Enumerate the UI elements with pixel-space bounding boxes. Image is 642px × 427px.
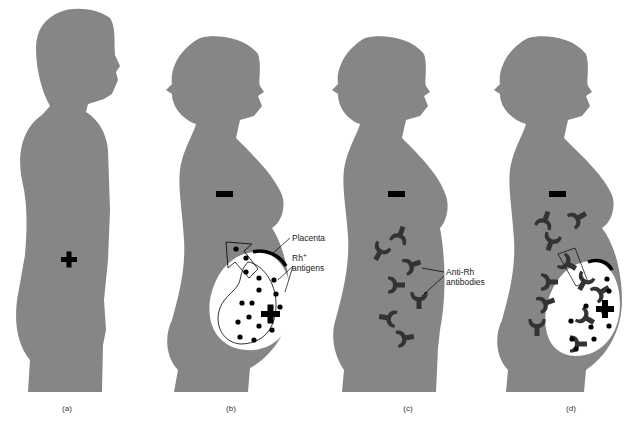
rh-negative-symbol	[216, 191, 233, 197]
female-silhouette-c	[332, 36, 448, 392]
rh-antigens-base: Rh	[292, 253, 303, 263]
panel-b-pregnant-figure	[166, 36, 293, 392]
panel-label-c: (c)	[403, 404, 412, 413]
diagram-canvas	[0, 0, 642, 427]
rh-negative-symbol	[549, 191, 566, 197]
rh-antigens-callout: Rh+ antigens	[292, 253, 324, 273]
anti-rh-callout: Anti-Rh antibodies	[446, 267, 485, 287]
male-silhouette	[16, 9, 120, 392]
placenta-callout: Placenta	[292, 233, 325, 243]
panel-label-d: (d)	[566, 404, 576, 413]
rh-antigens-line2: antigens	[292, 263, 324, 273]
anti-rh-line1: Anti-Rh	[446, 267, 474, 277]
panel-a-male-figure	[16, 9, 120, 392]
panel-d-pregnant-figure	[494, 36, 622, 392]
rh-antigens-sup: +	[303, 252, 307, 259]
panel-c-female-figure	[332, 36, 448, 392]
panel-label-b: (b)	[226, 404, 236, 413]
panel-label-a: (a)	[62, 404, 72, 413]
rh-negative-symbol	[388, 191, 405, 197]
anti-rh-line2: antibodies	[446, 277, 485, 287]
